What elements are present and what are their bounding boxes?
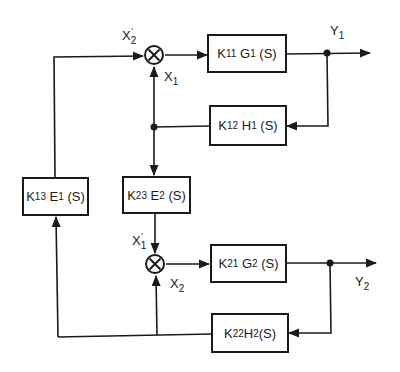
signal-prime: ' (141, 231, 143, 241)
block-arg: (S) (259, 326, 276, 341)
block-arg: (S) (259, 46, 276, 61)
block-gain-sub: 13 (35, 191, 46, 202)
block-fn-sub: 2 (252, 258, 258, 269)
signal-base: X (132, 233, 141, 248)
block-fn-sub: 1 (250, 48, 256, 59)
block-gain-sub: 12 (227, 120, 238, 131)
block-gain: K (26, 189, 35, 204)
block-arg: (S) (168, 188, 185, 203)
block-fn-sub: 2 (159, 190, 165, 201)
wire-bottom-to-k13e1 (56, 217, 58, 337)
signal-sub: 2 (131, 35, 137, 46)
signal-label-x1-prime: X1' (132, 232, 143, 251)
wire-y2-feedback (289, 263, 331, 333)
signal-sub: 2 (364, 281, 370, 292)
signal-prime: ' (131, 26, 133, 36)
block-fn: H (244, 326, 253, 341)
block-arg: (S) (260, 118, 277, 133)
signal-sub: 1 (339, 30, 345, 41)
block-k23-e2: K23 E2 (S) (122, 176, 191, 214)
block-k21-g2: K21 G2 (S) (210, 244, 287, 283)
wire-bottom-to-sum2 (156, 276, 157, 335)
y1-branch-node (324, 50, 331, 57)
block-arg: (S) (261, 256, 278, 271)
block-gain-sub: 21 (227, 258, 238, 269)
block-fn: H (242, 118, 251, 133)
signal-label-y1: Y1 (330, 24, 344, 41)
feedback-branch-node (151, 124, 158, 131)
block-gain: K (218, 118, 227, 133)
block-k22-h2: K22H2(S) (211, 313, 289, 353)
wire-k22h2-bottom (58, 334, 212, 337)
block-gain-sub: 22 (233, 328, 244, 339)
signal-sub: 1 (173, 76, 179, 87)
block-gain: K (218, 256, 227, 271)
signal-label-x2-prime: X2' (122, 27, 133, 46)
signal-label-x1: X1 (164, 70, 178, 87)
signal-label-y2: Y2 (355, 275, 369, 292)
signal-base: X (170, 276, 179, 291)
block-gain-sub: 23 (136, 190, 147, 201)
summing-junction-2 (145, 254, 165, 274)
block-gain: K (217, 46, 226, 61)
signal-sub: 1 (141, 240, 147, 251)
block-fn-sub: 1 (58, 191, 64, 202)
block-gain-sub: 11 (226, 48, 236, 59)
block-k12-h1: K12 H1 (S) (209, 105, 287, 146)
block-fn-sub: 1 (251, 120, 257, 131)
signal-base: Y (355, 274, 364, 289)
block-gain: K (127, 188, 136, 203)
block-fn: E (151, 188, 160, 203)
block-arg: (S) (67, 189, 84, 204)
signal-label-x2: X2 (170, 277, 184, 294)
block-fn: G (240, 46, 250, 61)
wire-k13e1-to-sum1 (54, 56, 143, 177)
block-k11-g1: K11 G1 (S) (207, 34, 287, 73)
block-gain: K (224, 326, 233, 341)
signal-sub: 2 (179, 283, 185, 294)
signal-base: Y (330, 23, 339, 38)
signal-base: X (164, 69, 173, 84)
y2-branch-node (327, 260, 334, 267)
block-k13-e1: K13 E1 (S) (22, 177, 89, 216)
signal-base: X (122, 28, 131, 43)
wire-k12h1-to-junction (154, 126, 210, 127)
summing-junction-1 (144, 45, 164, 65)
block-fn: E (50, 189, 59, 204)
wire-y1-feedback (287, 54, 328, 126)
block-fn: G (242, 256, 252, 271)
